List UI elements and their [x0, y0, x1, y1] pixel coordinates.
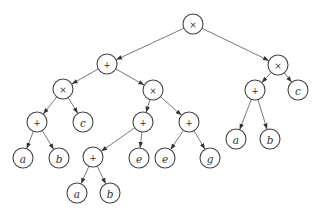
edge-arrow: [284, 73, 291, 82]
edge-arrow: [171, 130, 184, 149]
nodes-layer: ×+×××+c+c++abab+eegab: [13, 14, 308, 203]
node-label: a: [74, 188, 80, 200]
edge-arrow: [44, 97, 57, 114]
edge-arrow: [116, 69, 144, 85]
node-label: a: [20, 153, 26, 165]
edge-arrow: [72, 69, 98, 84]
node-label: +: [185, 118, 193, 128]
plus-operator-node: +: [83, 147, 103, 167]
node-label: +: [103, 60, 111, 70]
edge-arrow: [194, 131, 205, 149]
node-label: b: [56, 153, 63, 165]
node-label: ×: [274, 61, 282, 71]
plus-operator-node: +: [179, 112, 199, 132]
plus-operator-node: +: [27, 112, 47, 132]
plus-operator-node: +: [133, 112, 153, 132]
node-label: ×: [189, 20, 197, 30]
variable-node-a: a: [226, 129, 246, 149]
edge-arrow: [160, 97, 181, 115]
multiply-operator-node: ×: [143, 80, 163, 100]
variable-node-c: c: [73, 112, 93, 132]
node-label: c: [80, 117, 86, 129]
edge-arrow: [146, 100, 150, 112]
node-label: c: [295, 85, 301, 97]
node-label: b: [267, 134, 274, 146]
variable-node-a: a: [13, 148, 33, 168]
variable-node-b: b: [100, 183, 120, 203]
edge-arrow: [42, 131, 53, 150]
tree-canvas: ×+×××+c+c++abab+eegab: [0, 0, 317, 213]
expression-tree-diagram: ×+×××+c+c++abab+eegab: [0, 0, 317, 213]
variable-node-a: a: [67, 183, 87, 203]
node-label: +: [89, 153, 97, 163]
node-label: +: [251, 86, 259, 96]
node-label: a: [233, 134, 239, 146]
edge-arrow: [202, 28, 269, 60]
variable-node-g: g: [200, 148, 220, 168]
edge-arrow: [97, 166, 105, 183]
variable-node-b: b: [260, 129, 280, 149]
edge-arrow: [117, 28, 184, 59]
edge-arrow: [102, 128, 135, 151]
variable-node-e: e: [129, 148, 149, 168]
node-label: g: [207, 153, 214, 165]
node-label: +: [139, 118, 147, 128]
multiply-operator-node: ×: [53, 79, 73, 99]
node-label: +: [33, 118, 41, 128]
node-label: ×: [59, 85, 67, 95]
node-label: ×: [149, 86, 157, 96]
node-label: b: [107, 188, 114, 200]
edge-arrow: [68, 98, 77, 113]
multiply-operator-node: ×: [183, 14, 203, 34]
edge-arrow: [140, 132, 142, 148]
edge-arrow: [240, 99, 252, 129]
edge-arrow: [262, 72, 271, 82]
multiply-operator-node: ×: [268, 55, 288, 75]
edge-arrow: [27, 131, 34, 148]
node-label: e: [136, 153, 142, 165]
variable-node-e: e: [155, 148, 175, 168]
plus-operator-node: +: [245, 80, 265, 100]
variable-node-b: b: [49, 148, 69, 168]
plus-operator-node: +: [97, 54, 117, 74]
variable-node-c: c: [288, 80, 308, 100]
edge-arrow: [81, 166, 89, 183]
node-label: e: [162, 153, 168, 165]
edge-arrow: [258, 100, 267, 129]
